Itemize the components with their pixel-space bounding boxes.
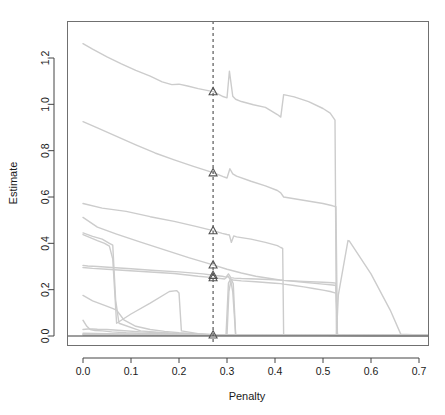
y-axis-tick-label: 1.2 bbox=[39, 51, 51, 66]
y-axis-tick-label: 0.0 bbox=[39, 329, 51, 344]
x-axis-tick-label: 0.7 bbox=[412, 365, 427, 377]
y-axis-tick-label: 0.8 bbox=[39, 143, 51, 158]
y-axis-tick-label: 0.2 bbox=[39, 282, 51, 297]
x-axis-tick-label: 0.6 bbox=[364, 365, 379, 377]
x-axis-tick-label: 0.5 bbox=[316, 365, 331, 377]
x-axis-label: Penalty bbox=[229, 390, 266, 402]
x-axis-tick-label: 0.3 bbox=[220, 365, 235, 377]
x-axis-tick-label: 0.0 bbox=[76, 365, 91, 377]
x-axis-tick-label: 0.2 bbox=[172, 365, 187, 377]
regularization-path-chart: 0.00.10.20.30.40.50.60.70.00.20.40.60.81… bbox=[0, 0, 445, 415]
x-axis-tick-label: 0.4 bbox=[268, 365, 283, 377]
y-axis-tick-label: 0.4 bbox=[39, 236, 51, 251]
y-axis-label: Estimate bbox=[7, 162, 19, 205]
y-axis-tick-label: 1.0 bbox=[39, 97, 51, 112]
figure-background bbox=[0, 0, 445, 415]
y-axis-tick-label: 0.6 bbox=[39, 190, 51, 205]
x-axis-tick-label: 0.1 bbox=[124, 365, 139, 377]
